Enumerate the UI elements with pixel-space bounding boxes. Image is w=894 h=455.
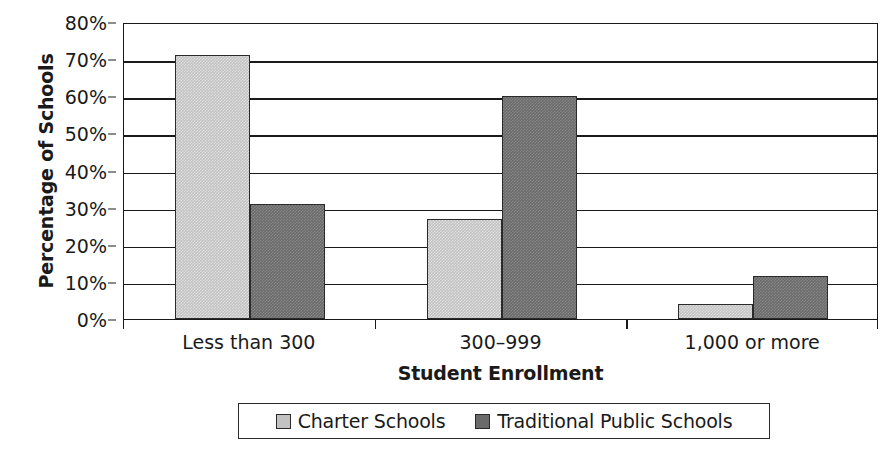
y-axis-tick-label: 30% (65, 199, 107, 218)
x-axis-title: Student Enrollment (123, 362, 878, 384)
bars-layer (124, 24, 877, 319)
bar (502, 96, 577, 319)
bar (175, 55, 250, 319)
y-axis-tick-label: 50% (65, 125, 107, 144)
y-axis-tick-mark (108, 320, 116, 321)
legend-item: Traditional Public Schools (475, 410, 732, 432)
y-axis-tick-label: 20% (65, 236, 107, 255)
y-axis-tick-mark (108, 60, 116, 61)
plot-area (123, 23, 878, 320)
x-axis-tick-mark (375, 320, 376, 329)
y-axis-tick-label: 0% (77, 311, 107, 330)
x-axis-tick-mark (626, 320, 627, 329)
legend-swatch-icon (276, 414, 291, 429)
bar (753, 276, 828, 319)
legend-swatch-icon (475, 414, 490, 429)
legend-label: Traditional Public Schools (497, 410, 732, 432)
bar (427, 219, 502, 319)
y-axis-tick-mark (108, 208, 116, 209)
x-axis-tick-label: 1,000 or more (685, 331, 820, 353)
y-axis-tick-mark (108, 23, 116, 24)
x-axis-tick-mark (123, 320, 124, 329)
legend-item: Charter Schools (276, 410, 446, 432)
x-axis-tick-marks (123, 320, 878, 330)
legend-label: Charter Schools (298, 410, 446, 432)
bar-chart: Percentage of Schools 0%10%20%30%40%50%6… (0, 0, 894, 455)
y-axis-tick-label: 60% (65, 88, 107, 107)
x-axis-tick-label: Less than 300 (182, 331, 315, 353)
y-axis-tick-mark (108, 97, 116, 98)
y-axis-tick-label: 40% (65, 162, 107, 181)
y-axis-tick-mark (108, 171, 116, 172)
y-axis-tick-mark (108, 245, 116, 246)
x-axis-tick-labels: Less than 300300–9991,000 or more (123, 331, 878, 359)
y-axis-tick-mark (108, 282, 116, 283)
x-axis-tick-mark (877, 320, 878, 329)
bar (678, 304, 753, 319)
y-axis-ticks: 0%10%20%30%40%50%60%70%80% (52, 23, 116, 320)
x-axis-tick-label: 300–999 (459, 331, 541, 353)
y-axis-tick-label: 70% (65, 51, 107, 70)
y-axis-tick-label: 10% (65, 273, 107, 292)
chart-legend: Charter SchoolsTraditional Public School… (238, 403, 770, 439)
bar (250, 204, 325, 319)
y-axis-tick-label: 80% (65, 14, 107, 33)
y-axis-tick-mark (108, 134, 116, 135)
